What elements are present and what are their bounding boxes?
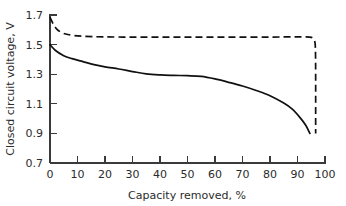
x-axis-ticks	[50, 156, 325, 163]
x-tick-label: 50	[181, 168, 195, 181]
y-tick-label: 1.7	[26, 9, 44, 22]
y-tick-label: 1.5	[26, 39, 44, 52]
x-tick-label: 70	[236, 168, 250, 181]
x-tick-label: 10	[71, 168, 85, 181]
x-tick-label: 0	[47, 168, 54, 181]
x-tick-label: 80	[263, 168, 277, 181]
y-axis-title: Closed circuit voltage, V	[4, 22, 17, 156]
x-tick-label: 30	[126, 168, 140, 181]
y-tick-label: 0.9	[26, 127, 44, 140]
x-tick-label: 20	[98, 168, 112, 181]
x-tick-label: 60	[208, 168, 222, 181]
series-solid-curve	[50, 45, 310, 134]
data-series-group	[50, 17, 316, 133]
y-tick-label: 1.3	[26, 68, 44, 81]
x-tick-label: 90	[291, 168, 305, 181]
y-tick-label: 0.7	[26, 157, 44, 170]
x-tick-label: 40	[153, 168, 167, 181]
line-chart: 0.70.91.11.31.51.7 010203040506070809010…	[0, 0, 346, 206]
chart-container: 0.70.91.11.31.51.7 010203040506070809010…	[0, 0, 346, 206]
y-axis-tick-labels: 0.70.91.11.31.51.7	[26, 9, 44, 170]
y-axis-ticks	[50, 15, 57, 163]
x-tick-label: 100	[315, 168, 336, 181]
y-tick-label: 1.1	[26, 98, 44, 111]
x-axis-tick-labels: 0102030405060708090100	[47, 168, 336, 181]
x-axis-title: Capacity removed, %	[128, 189, 246, 202]
